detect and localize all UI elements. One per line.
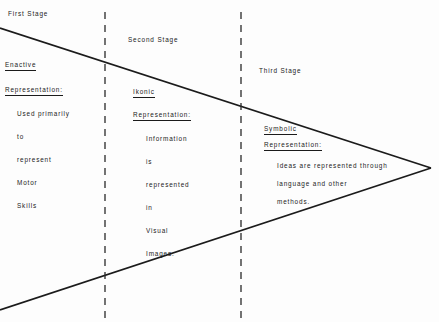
stage-body-line-first-3: represent: [17, 157, 52, 163]
stage-subheading-first: Representation:: [5, 87, 63, 96]
stage-body-line-first-4: Motor: [17, 180, 38, 186]
stage-label-third: Third Stage: [259, 68, 301, 74]
diagram-lines: [0, 0, 439, 322]
stage-body-line-second-2: is: [146, 159, 152, 165]
stage-body-line-first-2: to: [17, 134, 24, 140]
stage-body-line-second-1: Information: [146, 136, 187, 142]
wedge-upper-edge: [0, 28, 431, 168]
wedge-lower-edge: [0, 168, 431, 310]
stage-heading-symbolic: Symbolic: [264, 126, 297, 135]
stage-body-line-second-3: represented: [146, 182, 189, 188]
stage-body-line-third-1: Ideas are represented through: [277, 163, 388, 169]
stage-body-line-second-6: Images.: [146, 251, 175, 257]
stage-body-line-third-3: methods.: [277, 199, 310, 205]
stage-heading-ikonic: Ikonic: [133, 89, 155, 98]
stage-label-first: First Stage: [8, 11, 48, 17]
stage-body-line-third-2: language and other: [277, 181, 347, 187]
stage-body-line-second-4: in: [146, 205, 153, 211]
stage-label-second: Second Stage: [128, 37, 178, 43]
stage-body-line-second-5: Visual: [146, 228, 168, 234]
stage-subheading-second: Representation:: [133, 112, 191, 121]
stage-heading-enactive: Enactive: [5, 62, 36, 71]
stage-body-line-first-1: Used primarily: [17, 111, 70, 117]
stage-body-line-first-5: Skills: [17, 203, 37, 209]
stage-subheading-third: Representation:: [264, 142, 322, 151]
diagram-canvas: First Stage Enactive Representation: Use…: [0, 0, 439, 322]
